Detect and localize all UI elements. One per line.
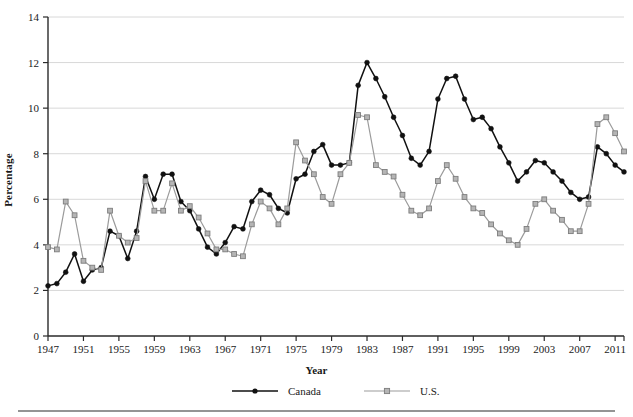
y-tick-label-4: 4 [34, 239, 40, 251]
data-point [453, 176, 458, 181]
data-point [143, 174, 148, 179]
data-point [533, 201, 538, 206]
data-point [409, 156, 414, 161]
data-point [356, 113, 361, 118]
legend-group: CanadaU.S. [232, 385, 440, 397]
data-point [258, 199, 263, 204]
unemployment-rate-line-chart: Percentage Year 02468101214 194719511955… [0, 0, 633, 417]
data-point [462, 97, 467, 102]
data-point [72, 213, 77, 218]
data-point [54, 281, 59, 286]
data-point [356, 83, 361, 88]
x-tick-label-1975: 1975 [285, 343, 308, 355]
data-point [409, 208, 414, 213]
series-line [48, 115, 624, 270]
x-tick-label-1995: 1995 [462, 343, 485, 355]
gridlines-group [48, 17, 624, 290]
data-point [187, 204, 192, 209]
data-point [453, 74, 458, 79]
y-tick-label-0: 0 [34, 330, 40, 342]
data-point [542, 197, 547, 202]
x-tick-label-1955: 1955 [108, 343, 131, 355]
data-point [249, 222, 254, 227]
data-point [613, 163, 618, 168]
data-point [489, 222, 494, 227]
data-point [63, 270, 68, 275]
data-point [489, 126, 494, 131]
data-point [498, 144, 503, 149]
x-tick-label-1967: 1967 [214, 343, 237, 355]
data-point [373, 163, 378, 168]
data-point [382, 170, 387, 175]
data-point [524, 227, 529, 232]
data-point [347, 160, 352, 165]
series-line [48, 63, 624, 286]
data-point [311, 149, 316, 154]
data-point [604, 115, 609, 120]
data-point [276, 206, 281, 211]
data-point [214, 252, 219, 257]
data-point [436, 179, 441, 184]
legend-label: U.S. [420, 385, 440, 397]
data-point [116, 233, 121, 238]
data-point [498, 231, 503, 236]
data-point [99, 268, 104, 273]
data-point [303, 172, 308, 177]
y-tick-label-2: 2 [34, 284, 40, 296]
data-point [179, 199, 184, 204]
data-point [72, 252, 77, 257]
data-point [533, 158, 538, 163]
data-point [560, 217, 565, 222]
legend-item-us[interactable]: U.S. [364, 385, 440, 397]
data-point [560, 179, 565, 184]
data-point [63, 199, 68, 204]
x-tick-label-1979: 1979 [321, 343, 344, 355]
data-point [90, 265, 95, 270]
data-point [542, 160, 547, 165]
data-point [329, 163, 334, 168]
data-point [46, 245, 51, 250]
data-point [241, 254, 246, 259]
y-tick-label-10: 10 [28, 102, 40, 114]
data-point [143, 179, 148, 184]
data-point [613, 131, 618, 136]
data-point [515, 242, 520, 247]
data-point [586, 201, 591, 206]
data-point [551, 170, 556, 175]
x-axis-label: Year [0, 364, 633, 376]
data-point [205, 231, 210, 236]
data-point [241, 227, 246, 232]
data-point [471, 117, 476, 122]
data-point [622, 149, 627, 154]
data-point [267, 206, 272, 211]
data-point [303, 158, 308, 163]
data-point [391, 174, 396, 179]
x-tick-label-1959: 1959 [143, 343, 166, 355]
data-point [329, 201, 334, 206]
legend-item-canada[interactable]: Canada [232, 385, 321, 397]
series-canada [46, 60, 627, 288]
data-point [232, 252, 237, 257]
data-point [81, 279, 86, 284]
data-point [418, 213, 423, 218]
legend-marker-circle-icon [252, 388, 257, 393]
data-point [551, 208, 556, 213]
data-point [382, 94, 387, 99]
data-point [54, 247, 59, 252]
data-point [462, 195, 467, 200]
x-tick-label-1983: 1983 [356, 343, 379, 355]
data-point [179, 208, 184, 213]
x-tick-label-2011: 2011 [604, 343, 626, 355]
data-point [161, 208, 166, 213]
data-point [152, 208, 157, 213]
data-point [161, 172, 166, 177]
x-tick-label-2003: 2003 [533, 343, 556, 355]
data-point [604, 151, 609, 156]
data-point [125, 256, 130, 261]
data-point [81, 258, 86, 263]
data-point [506, 238, 511, 243]
x-tick-label-1947: 1947 [37, 343, 60, 355]
x-tick-label-1987: 1987 [391, 343, 414, 355]
data-point [294, 140, 299, 145]
y-tick-label-12: 12 [28, 57, 39, 69]
